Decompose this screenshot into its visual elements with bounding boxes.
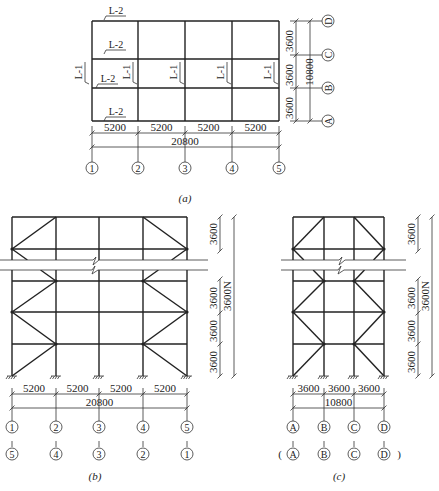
axis-label: 4	[230, 163, 235, 174]
joint-node	[10, 247, 13, 250]
brace	[354, 217, 384, 249]
dimension-text: 5200	[67, 382, 90, 394]
axis-label: D	[380, 449, 387, 460]
axis-label: 5	[185, 422, 190, 433]
floor-plan-a: L-2L-2L-2L-2L-1L-1L-1L-1L-15200520052005…	[73, 5, 334, 205]
support-hatch	[186, 376, 188, 379]
support-hatch	[292, 376, 294, 379]
axis-label: C	[351, 449, 358, 460]
support-hatch	[378, 376, 380, 379]
support-hatch	[353, 376, 355, 379]
fixed-support-icon	[137, 376, 148, 379]
dimension-text: 3600	[207, 287, 219, 310]
dimension-text: 3600	[283, 30, 295, 53]
axis-label: 3	[183, 163, 188, 174]
leader-line	[227, 82, 231, 84]
axis-label: 5	[10, 449, 15, 460]
joint-node	[291, 247, 294, 250]
brace	[12, 281, 56, 312]
brace	[143, 270, 158, 281]
beam-label: L-2	[109, 5, 123, 16]
brace	[143, 344, 187, 376]
joint-node	[382, 310, 385, 313]
support-hatch	[351, 376, 353, 379]
axis-label: 5	[277, 163, 282, 174]
beam-label: L-2	[109, 39, 123, 50]
axis-label: 3	[97, 449, 102, 460]
figure-caption: (c)	[333, 470, 346, 483]
support-hatch	[50, 376, 52, 379]
support-hatch	[383, 376, 385, 379]
beam-label: L-1	[73, 65, 84, 79]
axis-label: 1	[185, 449, 190, 460]
dimension-text: 5200	[154, 382, 177, 394]
brace	[12, 217, 56, 249]
dimension-text: 5200	[23, 382, 46, 394]
brace	[354, 270, 365, 281]
fixed-support-icon	[50, 376, 61, 379]
support-hatch	[386, 376, 388, 379]
brace	[293, 312, 324, 344]
brace	[354, 312, 384, 344]
dimension-text: 10800	[325, 396, 353, 408]
support-hatch	[145, 376, 147, 379]
dimension-text: 5200	[151, 121, 174, 133]
brace	[293, 249, 304, 260]
fixed-support-icon	[318, 376, 329, 379]
axis-label: B	[321, 449, 328, 460]
beam-label: L-1	[215, 65, 226, 79]
elevation-c: 36003600360036003600N36003600360010800AA…	[278, 215, 434, 484]
axis-label: 3	[97, 422, 102, 433]
support-hatch	[9, 376, 11, 379]
support-hatch	[184, 376, 186, 379]
fixed-support-icon	[348, 376, 359, 379]
axis-label: D	[323, 17, 334, 24]
support-hatch	[93, 376, 95, 379]
brace	[41, 270, 56, 281]
support-hatch	[142, 376, 144, 379]
beam-label: L-1	[121, 65, 132, 79]
support-hatch	[137, 376, 139, 379]
axis-label: A	[289, 449, 297, 460]
dimension-text: 20800	[86, 396, 114, 408]
figure-caption: (b)	[89, 470, 102, 483]
dimension-text: 3600N	[419, 281, 431, 311]
axis-label: 1	[90, 163, 95, 174]
dimension-text: 3600	[283, 64, 295, 87]
joint-node	[352, 279, 355, 282]
joint-node	[382, 247, 385, 250]
brace	[143, 281, 187, 312]
support-hatch	[287, 376, 289, 379]
brace	[172, 249, 187, 260]
beam-label: L-2	[101, 73, 115, 84]
support-hatch	[11, 376, 13, 379]
support-hatch	[96, 376, 98, 379]
fixed-support-icon	[287, 376, 298, 379]
axis-label: 2	[141, 449, 146, 460]
support-hatch	[356, 376, 358, 379]
support-hatch	[98, 376, 100, 379]
paren-close: )	[397, 448, 401, 461]
brace	[354, 281, 384, 312]
joint-node	[141, 279, 144, 282]
support-hatch	[58, 376, 60, 379]
support-hatch	[55, 376, 57, 379]
figure-caption: (a)	[179, 192, 192, 205]
joint-node	[10, 310, 13, 313]
support-hatch	[181, 376, 183, 379]
leader-line	[104, 50, 106, 54]
support-hatch	[295, 376, 297, 379]
axis-label: A	[289, 422, 297, 433]
support-hatch	[290, 376, 292, 379]
brace	[313, 270, 324, 281]
dimension-text: 3600N	[221, 281, 233, 311]
support-hatch	[348, 376, 350, 379]
axis-label: D	[380, 422, 387, 433]
support-hatch	[14, 376, 16, 379]
break-band	[0, 260, 208, 270]
axis-label: 2	[54, 422, 59, 433]
brace	[12, 344, 56, 376]
fixed-support-icon	[6, 376, 17, 379]
support-hatch	[101, 376, 103, 379]
joint-node	[322, 342, 325, 345]
